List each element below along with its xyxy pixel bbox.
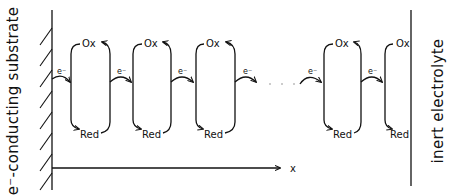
electrolyte-boundary: inert electrolyte bbox=[411, 10, 447, 186]
substrate-label-text: e⁻-conducting substrate bbox=[4, 7, 22, 196]
electron-label: e⁻ bbox=[243, 67, 252, 76]
redox-loop-5: e⁻ Ox Red bbox=[361, 38, 410, 140]
redox-loop-2: e⁻ Ox Red bbox=[110, 38, 171, 140]
red-label: Red bbox=[390, 129, 409, 140]
electron-label: e⁻ bbox=[368, 67, 377, 76]
continuation-dots bbox=[269, 83, 295, 85]
redox-hopping-diagram: e⁻-conducting substrate x inert electrol… bbox=[0, 0, 454, 196]
red-label: Red bbox=[204, 129, 223, 140]
ox-label: Ox bbox=[396, 38, 410, 49]
redox-loop-3: e⁻ Ox Red e⁻ bbox=[171, 38, 256, 140]
x-axis-label: x bbox=[290, 163, 296, 174]
red-label: Red bbox=[142, 129, 161, 140]
red-label: Red bbox=[333, 129, 352, 140]
ox-label: Ox bbox=[206, 38, 220, 49]
electron-label: e⁻ bbox=[308, 67, 317, 76]
red-label: Red bbox=[80, 129, 99, 140]
ox-label: Ox bbox=[144, 38, 158, 49]
redox-loop-4: e⁻ Ox Red bbox=[300, 38, 361, 140]
electron-label: e⁻ bbox=[178, 67, 187, 76]
electron-label: e⁻ bbox=[57, 67, 66, 76]
substrate-wall bbox=[40, 10, 52, 190]
redox-loop-1: Ox Red e⁻ bbox=[52, 38, 110, 140]
ox-label: Ox bbox=[335, 38, 349, 49]
electrolyte-label: inert electrolyte bbox=[429, 39, 447, 164]
x-axis: x bbox=[52, 163, 296, 174]
ox-label: Ox bbox=[82, 38, 96, 49]
substrate-label: e⁻-conducting substrate bbox=[4, 7, 22, 196]
electron-label: e⁻ bbox=[117, 67, 126, 76]
